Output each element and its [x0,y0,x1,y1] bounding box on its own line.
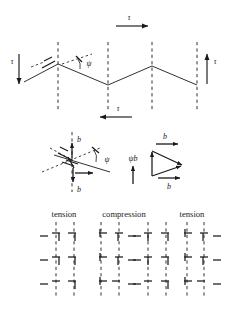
triangle-hypotenuse [152,151,182,165]
tau-top-arrow-group: τ [116,13,148,26]
tau-bottom-label: τ [117,104,120,113]
col4-row-2 [184,253,221,265]
col2-row-3 [99,277,136,285]
col4-row-3 [184,277,221,285]
burgers-vector-decomposition: b b ψ [42,132,111,194]
psi-b-label: ψb [129,154,138,163]
col3-row-1 [133,233,169,241]
tau-left-arrow-group: τ [11,54,19,84]
dislocation-diagram-svg: τ τ τ [0,0,228,316]
label-compression: compression [102,209,146,219]
b-top-vector-group: b [156,132,178,144]
psi-b-vector-group: ψb [129,154,138,184]
label-tension-right: tension [180,209,206,219]
col2-row-1 [99,229,136,241]
b-lower-label: b [77,185,81,194]
b-top-label: b [163,132,167,141]
triangle-base-edge [152,166,181,176]
psi-angle-group: ψ [62,54,93,69]
tension-compression-lattice-panel: tension compression tension [40,209,221,296]
col4-row-1 [184,229,221,241]
psi-label: ψ [87,59,93,68]
b-upper-label: b [77,135,81,144]
b-upper-vector-group: b [72,135,81,158]
decomposition-psi-group: ψ [92,147,111,164]
col3-row-3 [133,281,169,289]
b-lower-vector-group: b [73,168,81,194]
col1-row-2 [40,257,76,265]
col1-row-1 [40,233,76,241]
b-bottom-vector-group: b [158,178,180,191]
zigzag-slip-line [24,64,197,85]
tau-right-arrow-group: τ [207,54,217,84]
col1-row-3 [40,281,76,289]
lattice-column-1 [40,222,76,296]
decomposition-psi-arc [94,150,97,162]
lattice-column-2 [99,222,136,296]
vector-triangle: b b ψb [129,132,182,191]
figure-root: τ τ τ [0,0,228,316]
tau-top-label: τ [128,13,131,22]
tau-right-label: τ [214,57,217,66]
col2-row-2 [99,253,136,265]
tau-bottom-arrow-group: τ [100,104,132,117]
b-bottom-label: b [167,182,171,191]
label-tension-left: tension [52,209,78,219]
decomposition-psi-label: ψ [105,155,111,164]
tau-left-label: τ [11,57,14,66]
burgers-vector-panel: b b ψ [42,132,182,194]
dislocation-bar [44,57,52,61]
dislocation-guide-dash [31,62,44,67]
col3-row-2 [133,257,169,265]
lattice-column-3 [133,222,169,296]
zigzag-shear-panel: τ τ τ [11,13,217,117]
cluster-bar-1 [60,147,68,151]
lattice-column-4 [184,222,221,296]
